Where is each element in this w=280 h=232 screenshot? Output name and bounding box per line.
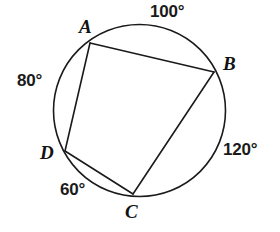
arc-measure-cd: 60° — [60, 181, 85, 198]
circle-diagram-canvas — [0, 0, 280, 232]
vertex-label-a: A — [79, 17, 92, 36]
chord-da — [65, 43, 90, 151]
vertex-label-d: D — [40, 143, 54, 162]
circumscribed-circle — [54, 25, 226, 197]
arc-measure-bc: 120° — [223, 141, 257, 158]
chord-bc — [133, 72, 214, 194]
vertex-label-b: B — [223, 54, 236, 73]
chord-ab — [90, 43, 214, 72]
arc-measure-da: 80° — [17, 72, 42, 89]
vertex-label-c: C — [125, 202, 138, 221]
arc-measure-ab: 100° — [150, 3, 184, 20]
geometry-figure: 100° 80° 120° 60° A B C D — [0, 0, 280, 232]
